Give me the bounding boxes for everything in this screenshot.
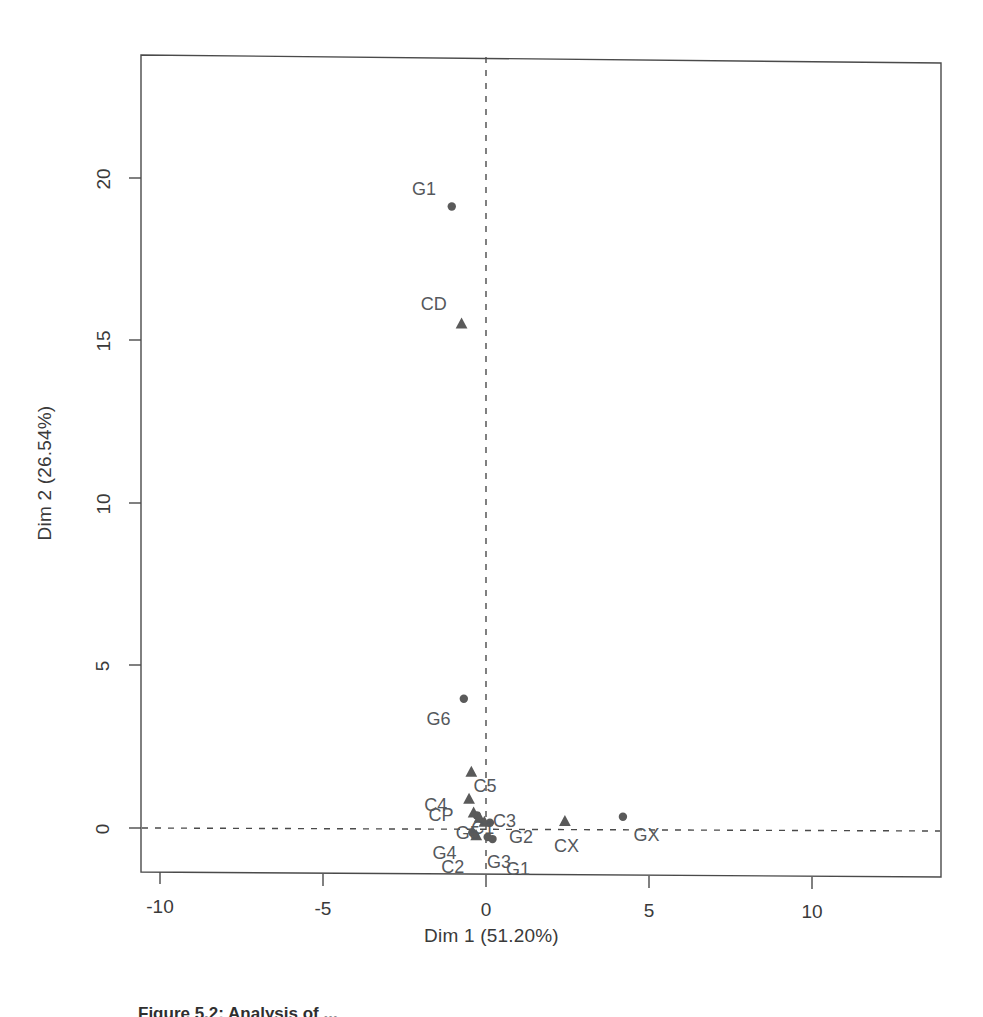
point-label-g1b: G1 — [506, 858, 530, 879]
point-label-g1: G1 — [412, 178, 436, 199]
x-tick-label: -5 — [315, 898, 332, 920]
point-label-gx: GX — [633, 824, 659, 845]
plot-frame — [141, 55, 941, 877]
point-label-c3: C3 — [493, 810, 516, 831]
data-point-cd — [456, 317, 468, 328]
reference-line-horizontal — [142, 828, 940, 831]
y-axis-ticks — [129, 178, 141, 828]
point-label-c2: C2 — [441, 856, 464, 877]
point-label-cx: CX — [554, 835, 579, 856]
y-tick-label: 10 — [93, 493, 115, 514]
x-tick-label: 0 — [481, 899, 492, 921]
y-tick-label: 15 — [93, 330, 115, 351]
point-label-cd: CD — [421, 293, 447, 314]
x-tick-label: 5 — [644, 900, 655, 922]
x-axis-title: Dim 1 (51.20%) — [0, 925, 983, 947]
data-point-cx — [559, 815, 571, 826]
data-point-g1 — [448, 202, 456, 210]
data-point-g6 — [460, 695, 468, 703]
y-tick-label: 20 — [93, 168, 115, 189]
y-tick-label: 0 — [92, 824, 114, 835]
point-label-c1: C1 — [471, 817, 494, 838]
data-markers — [448, 202, 628, 843]
point-label-cp: CP — [428, 805, 453, 826]
y-tick-label: 5 — [92, 661, 114, 672]
figure-caption: Figure 5.2: Analysis of ... — [138, 1004, 338, 1017]
x-tick-label: -10 — [146, 896, 173, 918]
point-label-g6: G6 — [426, 708, 450, 729]
figure-container: -10 -5 0 5 10 0 5 10 15 20 Dim 1 (51.20%… — [0, 0, 983, 1017]
point-label-c5: C5 — [473, 775, 496, 796]
y-axis-title: Dim 2 (26.54%) — [34, 93, 56, 853]
data-point-gx — [619, 813, 627, 821]
x-tick-label: 10 — [801, 901, 822, 923]
